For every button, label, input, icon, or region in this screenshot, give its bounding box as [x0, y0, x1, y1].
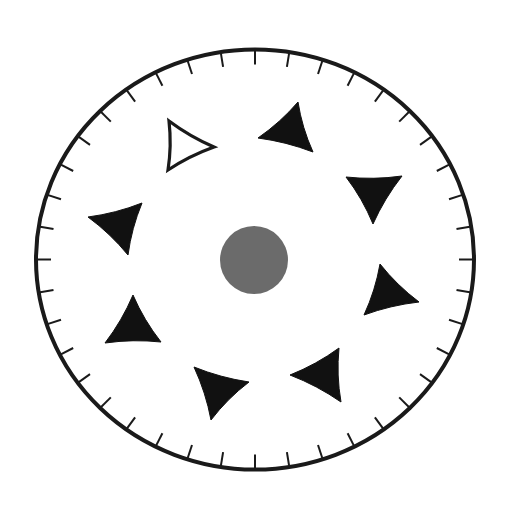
tick-mark [457, 227, 472, 229]
tick-mark [156, 72, 163, 85]
tick-mark [47, 320, 61, 325]
triangle-filled-right-lower [364, 264, 419, 315]
tick-mark [287, 452, 289, 467]
tick-mark [420, 374, 432, 383]
tick-mark [348, 433, 355, 446]
tick-mark [187, 445, 192, 459]
tick-mark [375, 90, 384, 102]
tick-mark [78, 374, 90, 383]
tick-mark [287, 52, 289, 67]
tick-mark [39, 227, 54, 229]
tick-mark [126, 417, 135, 429]
tick-mark [420, 136, 432, 145]
tick-mark [60, 348, 73, 355]
tick-mark [399, 397, 410, 408]
triangle-filled-top [258, 102, 313, 152]
tick-mark [100, 397, 111, 408]
center-dot [220, 226, 288, 294]
triangle-filled-left [88, 203, 142, 255]
tick-mark [437, 348, 450, 355]
tick-mark [39, 290, 54, 292]
triangle-filled-bottom [194, 367, 249, 420]
tick-mark [156, 433, 163, 446]
tick-mark [47, 195, 61, 200]
triangle-outlined-outlined-top-left [168, 121, 214, 170]
triangle-filled-bottom-right [290, 348, 341, 402]
tick-mark [318, 445, 323, 459]
tick-mark [78, 136, 90, 145]
tick-mark [100, 111, 111, 122]
triangle-filled-right-upper [346, 176, 402, 224]
tick-mark [318, 60, 323, 74]
tick-mark [348, 72, 355, 85]
tick-mark [375, 417, 384, 429]
tick-mark [60, 164, 73, 171]
dial-svg [0, 0, 520, 517]
tick-mark [449, 195, 463, 200]
tick-mark [437, 164, 450, 171]
tick-mark [449, 320, 463, 325]
tick-mark [221, 452, 223, 467]
tick-mark [187, 60, 192, 74]
dial-diagram [0, 0, 520, 517]
tick-mark [221, 52, 223, 67]
tick-mark [399, 111, 410, 122]
tick-mark [126, 90, 135, 102]
tick-mark [457, 290, 472, 292]
triangle-filled-bottom-left [105, 295, 161, 343]
